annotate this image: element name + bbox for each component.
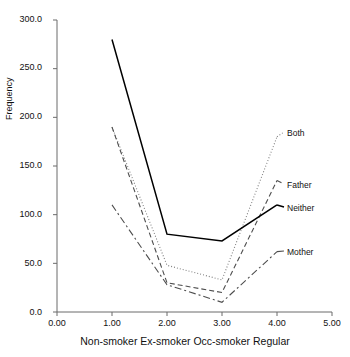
data-series-group [112,39,277,302]
chart-page: Frequency 0.0 50.0 100.0 150.0 200.0 250… [0,0,350,357]
series-line-father [112,127,277,292]
axis-lines [53,20,332,316]
plot-area [0,0,350,357]
leader-neither [277,205,284,207]
legend-label-neither: Neither [287,203,314,213]
legend-label-mother: Mother [287,247,313,257]
series-line-neither [112,39,277,240]
series-line-both [112,127,277,280]
legend-label-both: Both [287,128,305,138]
legend-label-father: Father [287,180,312,190]
leader-father [277,181,284,184]
leader-both [277,132,284,137]
legend-leader-lines [277,132,284,252]
leader-mother [277,251,284,252]
